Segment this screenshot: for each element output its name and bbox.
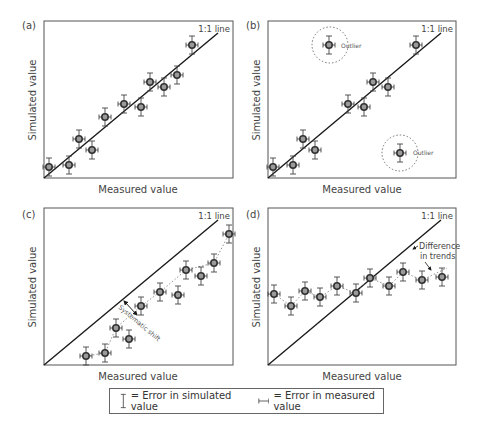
difference-label: in trends xyxy=(420,252,455,261)
y-axis-label: Simulated value xyxy=(27,59,38,140)
difference-arrow-trend xyxy=(425,262,431,270)
data-point xyxy=(383,277,395,295)
data-point xyxy=(208,254,220,272)
data-point xyxy=(268,285,280,303)
panel-label: (d) xyxy=(246,209,260,220)
data-point xyxy=(309,141,321,159)
data-point xyxy=(267,158,279,176)
difference-label: Difference xyxy=(419,242,460,251)
data-point xyxy=(394,144,406,162)
data-point xyxy=(80,347,92,365)
line-label: 1:1 line xyxy=(198,211,230,221)
outlier-label: Outlier xyxy=(341,42,362,49)
y-axis-label: Simulated value xyxy=(251,59,262,140)
panel-label: (b) xyxy=(246,20,260,31)
data-point xyxy=(350,284,362,302)
data-point xyxy=(110,319,122,337)
legend-item-meas-error: = Error in measured value xyxy=(258,390,383,412)
data-point xyxy=(171,66,183,84)
figure: (a) 1:1 line Measured value Simulated va… xyxy=(0,0,477,438)
data-point xyxy=(436,268,448,286)
outlier-label: Outlier xyxy=(413,149,434,156)
horizontal-errorbar-icon xyxy=(258,397,270,405)
panel-label: (a) xyxy=(22,20,36,31)
panel-a: (a) 1:1 line Measured value Simulated va… xyxy=(22,20,233,195)
data-point xyxy=(416,271,428,289)
panel-b: (b) 1:1 line Measured value Simulated va… xyxy=(246,20,456,195)
data-point xyxy=(154,283,166,301)
data-point xyxy=(43,158,55,176)
data-point xyxy=(364,269,376,287)
panel-label: (c) xyxy=(22,209,35,220)
data-point xyxy=(86,141,98,159)
y-axis-label: Simulated value xyxy=(27,246,38,327)
data-points xyxy=(267,36,422,176)
data-point xyxy=(299,282,311,300)
legend-meas-error-label: = Error in measured value xyxy=(273,390,383,412)
x-axis-label: Measured value xyxy=(322,371,401,382)
vertical-errorbar-icon xyxy=(120,392,127,410)
panel-d: (d) 1:1 line Measured value Simulated va… xyxy=(246,208,460,382)
data-point xyxy=(342,95,354,113)
data-point xyxy=(397,263,409,281)
data-point xyxy=(123,330,135,348)
one-to-one-line xyxy=(44,220,218,365)
data-point xyxy=(367,73,379,91)
data-point xyxy=(99,344,111,362)
data-point xyxy=(180,261,192,279)
data-point xyxy=(135,297,147,315)
data-point xyxy=(285,297,297,315)
y-axis-label: Simulated value xyxy=(251,246,262,327)
difference-arrow-line xyxy=(413,246,418,249)
panel-c: (c) 1:1 line Measured value Simulated va… xyxy=(22,208,235,382)
line-label: 1:1 line xyxy=(421,211,453,221)
data-point xyxy=(63,156,75,174)
data-point xyxy=(144,73,156,91)
x-axis-label: Measured value xyxy=(322,184,401,195)
legend-item-sim-error: = Error in simulated value xyxy=(120,390,240,412)
data-point xyxy=(323,36,335,54)
line-label: 1:1 line xyxy=(198,24,230,34)
data-points xyxy=(43,36,198,176)
data-point xyxy=(118,95,130,113)
data-point xyxy=(314,288,326,306)
x-axis-label: Measured value xyxy=(98,371,177,382)
legend: = Error in simulated value = Error in me… xyxy=(109,388,384,414)
line-label: 1:1 line xyxy=(421,24,453,34)
data-point xyxy=(195,267,207,285)
data-point xyxy=(331,277,343,295)
data-points xyxy=(80,225,235,365)
data-point xyxy=(172,286,184,304)
data-point xyxy=(287,156,299,174)
legend-sim-error-label: = Error in simulated value xyxy=(131,390,240,412)
x-axis-label: Measured value xyxy=(98,184,177,195)
